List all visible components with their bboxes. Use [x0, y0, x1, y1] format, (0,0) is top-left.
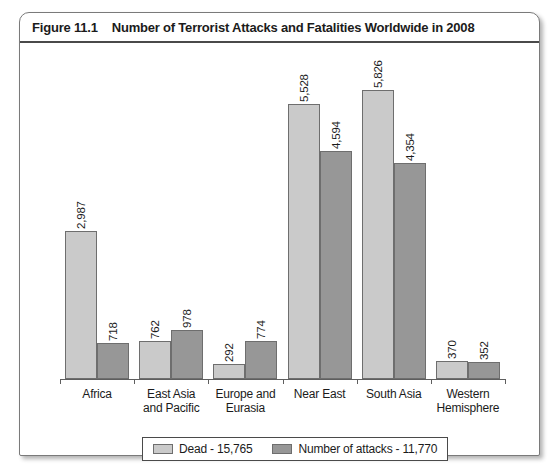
category-label-line1: Africa: [60, 387, 134, 401]
bar-attacks: [394, 163, 426, 379]
axis-tick: [208, 379, 209, 384]
figure-title-bar: Figure 11.1 Number of Terrorist Attacks …: [20, 13, 539, 43]
axis-tick: [505, 379, 506, 384]
bar-dead: [213, 364, 245, 379]
category-label: WesternHemisphere: [431, 387, 505, 415]
category-label-line1: Europe and: [208, 387, 282, 401]
bar-value-label: 718: [106, 307, 120, 341]
category-label: East Asiaand Pacific: [134, 387, 208, 415]
legend-swatch-attacks: [272, 444, 292, 454]
category-label-line1: East Asia: [134, 387, 208, 401]
bar-value-label: 4,594: [329, 115, 343, 149]
bar-group: 5,5284,594: [283, 61, 357, 379]
figure-frame: Figure 11.1 Number of Terrorist Attacks …: [19, 12, 540, 456]
axis-tick: [60, 379, 61, 384]
bar-dead: [65, 231, 97, 379]
bar-value-label: 352: [477, 326, 491, 360]
bar-dead: [436, 361, 468, 379]
axis-tick: [357, 379, 358, 384]
category-label: Europe andEurasia: [208, 387, 282, 415]
category-label-line2: Eurasia: [208, 401, 282, 415]
bar-value-label: 978: [180, 294, 194, 328]
axis-tick: [134, 379, 135, 384]
legend-swatch-dead: [153, 444, 173, 454]
bar-group: 370352: [431, 61, 505, 379]
axis-tick: [431, 379, 432, 384]
page-title: Number of Terrorist Attacks and Fataliti…: [112, 20, 475, 35]
category-label: South Asia: [357, 387, 431, 401]
category-label-line1: Western: [431, 387, 505, 401]
legend-entry: Dead - 15,765: [153, 442, 252, 456]
category-label-line1: South Asia: [357, 387, 431, 401]
category-label-line2: and Pacific: [134, 401, 208, 415]
category-label-line2: Hemisphere: [431, 401, 505, 415]
bar-attacks: [171, 330, 203, 379]
bar-group: 762978: [134, 61, 208, 379]
bar-attacks: [97, 343, 129, 379]
category-label: Africa: [60, 387, 134, 401]
bar-group: 292774: [208, 61, 282, 379]
legend-entry: Number of attacks - 11,770: [272, 442, 437, 456]
bar-value-label: 370: [445, 325, 459, 359]
chart-canvas: 2,9877187629782927745,5284,5945,8264,354…: [20, 43, 539, 455]
bar-value-label: 5,826: [371, 54, 385, 88]
bar-value-label: 762: [148, 305, 162, 339]
axis-tick: [283, 379, 284, 384]
plot-area: 2,9877187629782927745,5284,5945,8264,354…: [60, 61, 505, 379]
chart-legend: Dead - 15,765Number of attacks - 11,770: [142, 437, 448, 461]
bar-group: 5,8264,354: [357, 61, 431, 379]
bar-value-label: 774: [254, 305, 268, 339]
bar-dead: [362, 90, 394, 379]
category-label: Near East: [283, 387, 357, 401]
bar-dead: [139, 341, 171, 379]
figure-number: Figure 11.1: [32, 20, 98, 35]
bar-attacks: [468, 362, 500, 379]
bar-dead: [288, 104, 320, 379]
legend-label: Dead - 15,765: [179, 442, 252, 456]
bar-value-label: 5,528: [297, 68, 311, 102]
bar-value-label: 4,354: [403, 127, 417, 161]
bar-attacks: [320, 151, 352, 379]
bar-value-label: 2,987: [74, 195, 88, 229]
bar-value-label: 292: [222, 328, 236, 362]
bar-attacks: [245, 341, 277, 379]
legend-label: Number of attacks - 11,770: [298, 442, 437, 456]
bar-group: 2,987718: [60, 61, 134, 379]
category-label-line1: Near East: [283, 387, 357, 401]
